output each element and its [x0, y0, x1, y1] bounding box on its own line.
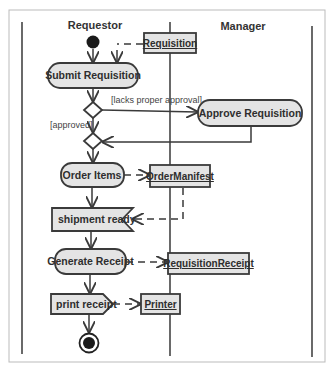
decision-node — [84, 102, 102, 118]
action-generate-receipt-label: Generate Receipt — [47, 255, 134, 267]
object-requisition-receipt-label: RequisitionReceipt — [163, 258, 254, 269]
accept-event-shipment-ready-label: shipment ready — [58, 213, 136, 225]
object-order-manifest-label: OrderManifest — [146, 171, 214, 182]
action-approve-requisition-label: Approve Requisition — [199, 107, 302, 119]
object-requisition-label: Requisition — [143, 38, 197, 49]
guard-approved: [approved] — [50, 120, 93, 130]
guard-lacks-approval: [lacks proper approval] — [111, 95, 202, 105]
lane-header-requestor: Requestor — [68, 19, 123, 31]
action-order-items-label: Order Items — [63, 169, 122, 181]
merge-node — [84, 133, 102, 149]
final-node — [83, 337, 95, 349]
initial-node — [87, 36, 100, 49]
lane-header-manager: Manager — [220, 20, 266, 32]
flow-to-approve — [102, 110, 197, 112]
signal-flow-shipment — [133, 188, 183, 219]
flow-approve-to-merge — [103, 126, 251, 142]
action-submit-requisition-label: Submit Requisition — [45, 69, 141, 81]
object-printer-label: Printer — [144, 299, 176, 310]
send-signal-print-receipt-label: print receipt — [56, 298, 117, 310]
activity-diagram: Requestor Manager Requisition Submit Req… — [0, 0, 336, 371]
